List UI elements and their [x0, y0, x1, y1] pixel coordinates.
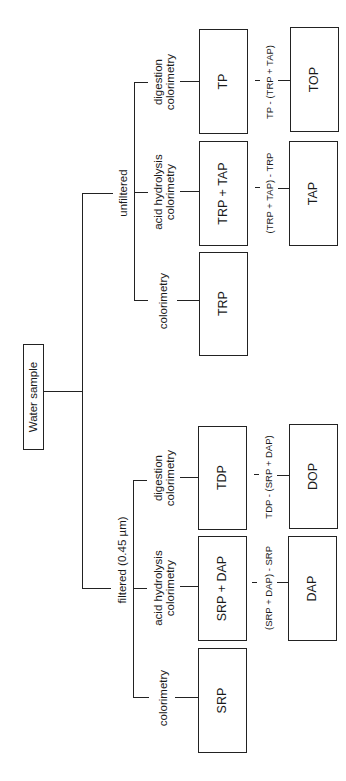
method-label-filtered-acid: acid hydrolysiscolorimetry — [147, 536, 181, 640]
formula-dop: TDP - (SRP + DAP) — [261, 425, 277, 529]
connector-to-tdp — [180, 477, 198, 478]
connector-to-trp-tap — [180, 191, 199, 192]
connector-to-colorimetry-label — [134, 300, 148, 301]
node-srp: SRP — [198, 648, 247, 753]
node-trp: TRP — [199, 252, 248, 356]
connector-to-filtered-acid-label — [133, 588, 147, 589]
tick-tp-formula — [255, 80, 260, 81]
method-label-filtered-colorimetry: colorimetry — [152, 652, 174, 744]
method-label-unfiltered-acid: acid hydrolysiscolorimetry — [147, 140, 181, 244]
connector-to-digestion-label — [134, 82, 148, 83]
connector-to-dop — [277, 475, 289, 476]
tick-dap-formula — [252, 582, 257, 583]
node-tap: TAP — [289, 141, 338, 246]
method-label-unfiltered-digestion: digestioncolorimetry — [147, 40, 181, 124]
connector-to-filtered-digestion-label — [133, 480, 147, 481]
formula-tap: (TRP + TAP) - TRP — [262, 140, 278, 246]
root-node-water-sample: Water sample — [23, 344, 44, 450]
trunk-to-unfiltered — [82, 193, 113, 194]
connector-to-srp-dap — [180, 586, 198, 587]
method-label-unfiltered-colorimetry: colorimetry — [152, 255, 174, 347]
method-label-filtered-digestion: digestioncolorimetry — [147, 436, 181, 520]
connector-to-srp — [175, 697, 198, 698]
formula-tp-top: TP - (TRP + TAP) — [262, 30, 278, 134]
connector-to-dap — [277, 582, 288, 583]
trunk-vertical — [82, 193, 83, 589]
connector-to-tp — [180, 81, 199, 82]
node-trp-plus-tap: TRP + TAP — [199, 141, 248, 246]
node-tdp: TDP — [198, 426, 247, 530]
node-top: TOP — [290, 27, 339, 132]
trunk-to-filtered — [82, 588, 111, 589]
root-label: Water sample — [27, 362, 39, 433]
node-dop: DOP — [289, 424, 338, 529]
node-dap: DAP — [288, 536, 337, 641]
connector-to-filtered-colorimetry-label — [133, 697, 149, 698]
tick-dop-formula — [254, 474, 259, 475]
root-connector — [43, 391, 83, 392]
connector-to-trp — [177, 300, 199, 301]
branch-label-unfiltered: unfiltered — [113, 150, 133, 236]
connector-to-acid-label — [134, 192, 148, 193]
connector-to-top — [278, 80, 290, 81]
node-tp: TP — [199, 29, 248, 134]
node-srp-plus-dap: SRP + DAP — [198, 536, 247, 641]
tick-tap-formula — [255, 187, 260, 188]
branch-label-filtered: filtered (0.45 µm) — [112, 500, 132, 620]
formula-dap: (SRP + DAP) - SRP — [261, 538, 277, 638]
